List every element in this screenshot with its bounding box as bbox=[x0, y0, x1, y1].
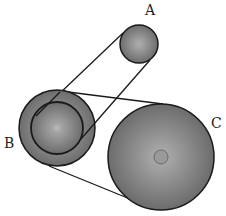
hub-b bbox=[54, 125, 60, 131]
label-a: A bbox=[145, 3, 155, 17]
pulley-diagram bbox=[0, 0, 226, 216]
hub-a bbox=[137, 42, 142, 47]
hub-c bbox=[154, 150, 168, 164]
pulley-a bbox=[120, 25, 158, 63]
pulley-c bbox=[108, 104, 214, 210]
label-b: B bbox=[4, 136, 14, 150]
label-c: C bbox=[211, 116, 222, 130]
pulley-b bbox=[19, 90, 95, 166]
